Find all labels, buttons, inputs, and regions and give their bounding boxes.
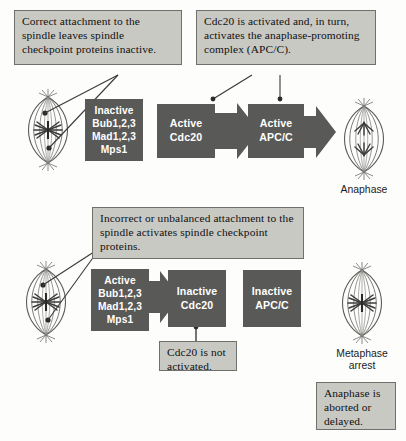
caption-metaphase-arrest: Metaphasearrest (322, 348, 402, 373)
box-inactive-cdc20: InactiveCdc20 (168, 270, 226, 327)
kinetochore-dot-bottom-a (40, 282, 45, 287)
caption-anaphase: Anaphase (324, 184, 404, 196)
box-active-checkpoint-proteins: ActiveBub1,2,3Mad1,2,3Mps1 (91, 269, 149, 331)
figure-canvas: Correct attachment to the spindle leaves… (0, 0, 406, 441)
callout-anaphase-aborted: Anaphase is aborted or delayed. (316, 382, 396, 430)
kinetochore-dot-top-a (42, 110, 47, 115)
leader-line-cdc20-activated (213, 75, 252, 99)
callout-cdc20-activated: Cdc20 is activated and, in turn, activat… (196, 10, 376, 65)
spindle-bottom-left (27, 261, 66, 343)
spindle-top-right (345, 98, 384, 180)
arrow-apc-to-anaphase (301, 106, 336, 158)
callout-cdc20-not-activated: Cdc20 is not activated. (159, 341, 237, 371)
leader-dot-apc (278, 97, 283, 102)
kinetochore-dot-bottom-b (45, 317, 50, 322)
box-inactive-apc: InactiveAPC/C (243, 270, 301, 327)
callout-correct-attachment: Correct attachment to the spindle leaves… (14, 10, 182, 65)
box-active-apc: ActiveAPC/C (248, 104, 304, 158)
spindle-top-left (29, 89, 68, 171)
leader-dot-cdc20 (211, 97, 216, 102)
spindle-bottom-right (343, 262, 382, 344)
callout-incorrect-attachment: Incorrect or unbalanced attachment to th… (92, 207, 304, 259)
kinetochore-dot-top-b (46, 145, 51, 150)
box-inactive-checkpoint-proteins: InactiveBub1,2,3Mad1,2,3Mps1 (85, 99, 143, 161)
box-active-cdc20: ActiveCdc20 (157, 104, 215, 158)
